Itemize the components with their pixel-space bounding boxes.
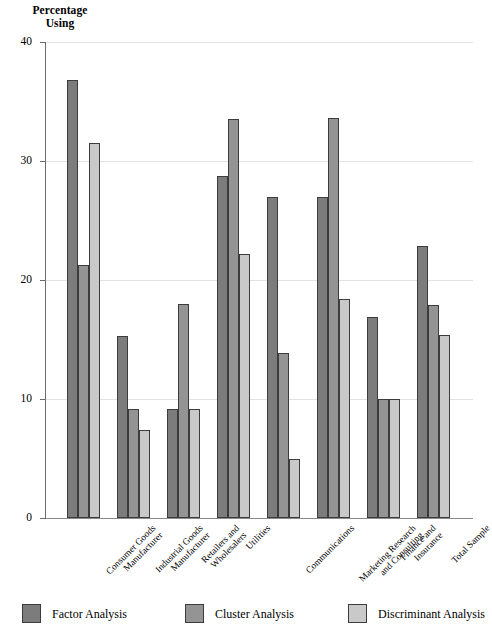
bar-group	[167, 42, 200, 518]
bar-group	[317, 42, 350, 518]
bar[interactable]	[67, 80, 78, 518]
bar-group	[417, 42, 450, 518]
y-tick-label-30: 30	[21, 155, 33, 167]
bar[interactable]	[189, 409, 200, 518]
gridline-20	[46, 280, 473, 281]
plot-area: 010203040	[45, 42, 473, 519]
gridline-40	[46, 42, 473, 43]
legend-label: Discriminant Analysis	[378, 607, 485, 621]
x-axis-label-line: Total Sample	[450, 523, 492, 565]
bar[interactable]	[167, 409, 178, 518]
legend-swatch	[348, 604, 367, 623]
bar[interactable]	[78, 265, 89, 518]
y-tick-label-20: 20	[21, 274, 33, 286]
legend: Factor AnalysisCluster AnalysisDiscrimin…	[0, 604, 477, 638]
bar[interactable]	[439, 335, 450, 518]
bar[interactable]	[217, 176, 228, 518]
legend-label: Factor Analysis	[52, 607, 127, 621]
legend-swatch	[22, 604, 41, 623]
legend-item[interactable]: Factor Analysis	[22, 604, 127, 623]
bar[interactable]	[267, 197, 278, 518]
bar[interactable]	[139, 430, 150, 518]
y-tick-mark-30: 30	[40, 161, 46, 162]
gridline-10	[46, 399, 473, 400]
bar[interactable]	[128, 409, 139, 518]
x-axis-label: Retailers andWholesalers	[199, 523, 249, 573]
x-axis-label: Total Sample	[450, 523, 492, 565]
y-tick-mark-20: 20	[40, 280, 46, 281]
legend-swatch	[185, 604, 204, 623]
x-axis-line	[45, 518, 473, 519]
legend-item[interactable]: Discriminant Analysis	[348, 604, 485, 623]
bar-group	[367, 42, 400, 518]
x-axis-label-line: Communications	[304, 523, 357, 576]
y-tick-mark-40: 40	[40, 42, 46, 43]
bar-group	[117, 42, 150, 518]
y-tick-label-40: 40	[21, 36, 33, 48]
legend-item[interactable]: Cluster Analysis	[185, 604, 294, 623]
bar[interactable]	[417, 246, 428, 519]
legend-label: Cluster Analysis	[215, 607, 294, 621]
bar[interactable]	[328, 118, 339, 518]
title-line-2: Using	[14, 17, 106, 30]
bar[interactable]	[178, 304, 189, 518]
bar[interactable]	[339, 299, 350, 518]
bar[interactable]	[367, 317, 378, 518]
bar[interactable]	[378, 399, 389, 518]
bar-group	[217, 42, 250, 518]
bar[interactable]	[389, 399, 400, 518]
bar[interactable]	[317, 197, 328, 518]
gridline-30	[46, 161, 473, 162]
bar[interactable]	[289, 459, 300, 519]
bar[interactable]	[89, 143, 100, 518]
y-tick-mark-0: 0	[40, 518, 46, 519]
page-title: Percentage Using	[14, 4, 106, 30]
x-axis-label: Communications	[304, 523, 357, 576]
y-tick-label-0: 0	[26, 512, 32, 524]
title-line-1: Percentage	[14, 4, 106, 17]
bar[interactable]	[239, 254, 250, 518]
bar[interactable]	[428, 305, 439, 518]
y-tick-label-10: 10	[21, 393, 33, 405]
x-axis-label: Consumer GoodsManufacturer	[104, 523, 165, 584]
bar[interactable]	[278, 353, 289, 518]
y-tick-mark-10: 10	[40, 399, 46, 400]
bar[interactable]	[117, 336, 128, 518]
bar[interactable]	[228, 119, 239, 518]
bar-group	[67, 42, 100, 518]
bar-group	[267, 42, 300, 518]
